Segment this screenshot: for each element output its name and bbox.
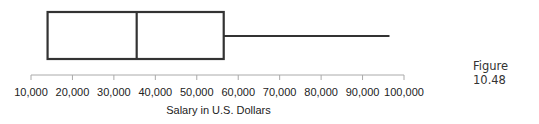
x-tick-label: 80,000	[304, 86, 338, 98]
box-plot: 10,00020,00030,00040,00050,00060,00070,0…	[0, 0, 539, 124]
x-tick-label: 70,000	[263, 86, 297, 98]
figure-caption: Figure 10.48	[473, 59, 539, 87]
x-tick-label: 60,000	[221, 86, 255, 98]
x-tick-label: 90,000	[346, 86, 380, 98]
x-tick-label: 10,000	[14, 86, 48, 98]
x-tick-label: 20,000	[56, 86, 90, 98]
x-axis-title: Salary in U.S. Dollars	[166, 104, 271, 116]
x-tick-label: 100,000	[384, 86, 424, 98]
x-tick-label: 50,000	[180, 86, 214, 98]
x-tick-label: 30,000	[97, 86, 131, 98]
x-tick-label: 40,000	[139, 86, 173, 98]
